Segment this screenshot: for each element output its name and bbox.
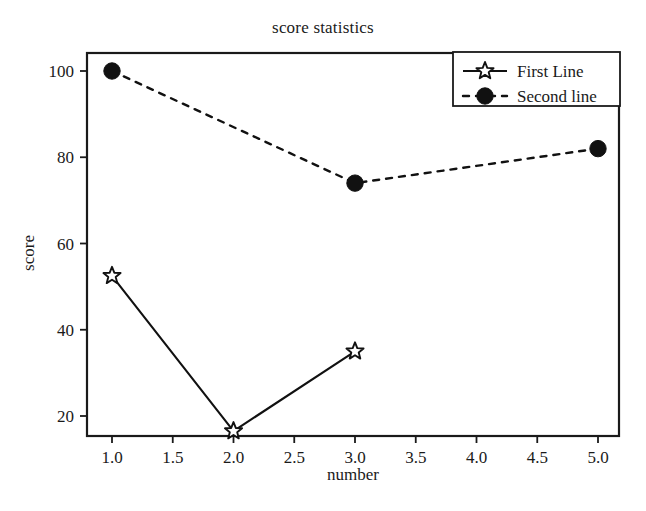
circle-marker — [590, 140, 606, 156]
x-tick-label: 2.0 — [223, 448, 244, 467]
legend-circle-icon — [477, 88, 493, 104]
x-tick-label: 1.5 — [162, 448, 183, 467]
y-tick-label: 40 — [57, 321, 74, 340]
legend-label-2: Second line — [517, 87, 597, 106]
x-tick-label: 4.0 — [466, 448, 487, 467]
y-tick-label: 80 — [57, 148, 74, 167]
x-axis-title: number — [327, 465, 379, 484]
x-tick-label: 5.0 — [587, 448, 608, 467]
y-tick-label: 60 — [57, 235, 74, 254]
y-axis-tick-labels: 20406080100 — [49, 62, 75, 426]
data-series-layer — [103, 63, 606, 439]
y-tick-label: 20 — [57, 407, 74, 426]
legend: First LineSecond line — [453, 52, 620, 106]
plot-area: 1.01.52.02.53.03.54.04.55.0 20406080100 … — [0, 0, 646, 511]
circle-marker — [104, 63, 120, 79]
x-tick-label: 2.5 — [284, 448, 305, 467]
x-tick-label: 1.0 — [101, 448, 122, 467]
star-marker — [103, 267, 120, 283]
plot-frame — [87, 53, 619, 436]
y-axis-title: score — [19, 235, 38, 271]
x-tick-label: 3.5 — [405, 448, 426, 467]
x-tick-label: 4.5 — [527, 448, 548, 467]
circle-marker — [347, 175, 363, 191]
chart-figure: score statistics 1.01.52.02.53.03.54.04.… — [0, 0, 646, 511]
y-tick-label: 100 — [49, 62, 75, 81]
series-line-1 — [112, 276, 355, 431]
legend-label-1: First Line — [517, 62, 584, 81]
